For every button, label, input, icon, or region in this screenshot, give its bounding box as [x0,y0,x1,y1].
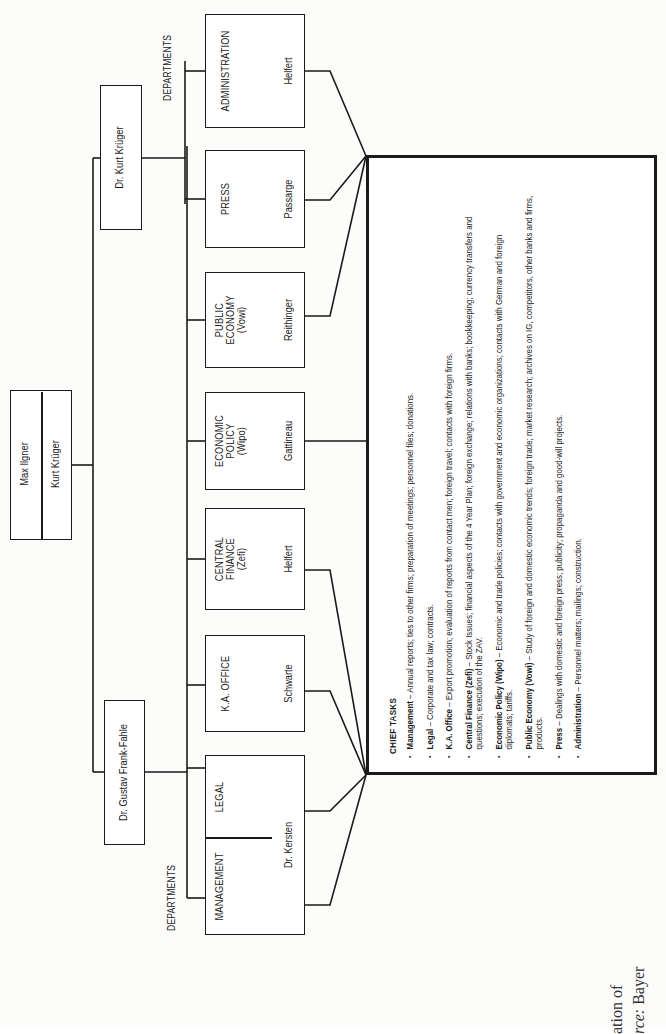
dept-box-ka-office: K.A. OFFICE Schwarte [205,635,305,732]
left-branch-head-box: Dr. Gustav Frank-Fahle [104,700,145,845]
dept-person: Dr. Kersten [282,767,294,924]
chief-tasks-list: •Management – Annual reports; ties to ot… [405,158,593,758]
dept-title-management: MANAGEMENT [214,845,225,929]
figure-caption-line1: ation of [608,985,626,1034]
dept-person: Passarge [282,157,294,241]
task-item-management: •Management – Annual reports; ties to ot… [405,156,416,758]
bullet-icon: • [425,756,436,758]
dept-title: PRESS [220,157,231,241]
bullet-icon: • [464,756,475,758]
dept-person: Reithinger [282,279,294,362]
bullet-icon: • [573,756,584,758]
dept-person: Gattineau [282,399,294,483]
chief-tasks-header: CHIEF TASKS [387,698,398,754]
dept-box-public-economy: PUBLIC ECONOMY (Vowi) Reithinger [205,272,305,368]
dept-box-economic-policy: ECONOMIC POLICY (Wipo) Gattineau [205,392,305,490]
figure-caption-line2: rce: Bayer [630,967,648,1034]
bullet-icon: • [494,756,505,758]
bullet-icon: • [444,756,455,758]
dept-title: K.A. OFFICE [220,642,231,726]
dept-title: (Vowi) [236,279,247,362]
bullet-icon: • [524,756,535,758]
task-item-press: •Press – Dealings with domestic and fore… [554,156,565,758]
dept-box-management-legal: MANAGEMENT LEGAL Dr. Kersten [205,755,305,935]
bullet-icon: • [405,756,416,758]
dept-title: (Wipo) [236,399,247,483]
task-item-legal: •Legal – Corporate and tax law; contract… [425,156,436,758]
dept-title: ADMINISTRATION [220,22,231,121]
dept-box-press: PRESS Passarge [205,150,305,248]
executive-name: Kurt Krüger [49,400,61,528]
dept-person: Helfert [282,22,294,121]
dept-box-central-finance: CENTRAL FINANCE (Zefi) Helfert [205,508,305,610]
branch-head-name: Dr. Gustav Frank-Fahle [117,712,129,834]
chief-tasks-box: CHIEF TASKS •Management – Annual reports… [366,155,657,775]
dept-box-administration: ADMINISTRATION Helfert [205,14,305,128]
task-item-ka-office: •K.A. Office – Export promotion; evaluat… [444,156,455,758]
right-branch-head-box: Dr. Kurt Krüger [100,85,142,230]
dept-person: Schwarte [282,642,294,726]
dept-person: Helfert [282,515,294,603]
executive-name: Max Ilgner [18,400,30,528]
task-item-administration: •Administration – Personnel matters; mai… [573,156,584,758]
task-item-central-finance: •Central Finance (Zefi) – Stock Issues; … [464,199,485,758]
bullet-icon: • [554,756,565,758]
dept-title: (Zefi) [236,515,247,603]
departments-label: DEPARTMENTS [166,865,177,931]
branch-head-name: Dr. Kurt Krüger [113,97,125,219]
dept-title-legal: LEGAL [214,761,225,833]
departments-label: DEPARTMENTS [162,35,173,101]
top-executive-box: Max Ilgner Kurt Krüger [10,390,72,540]
task-item-public-economy: •Public Economy (Vowi) – Study of foreig… [524,165,545,758]
task-item-economic-policy: •Economic Policy (Wipo) – Economic and t… [494,199,515,758]
